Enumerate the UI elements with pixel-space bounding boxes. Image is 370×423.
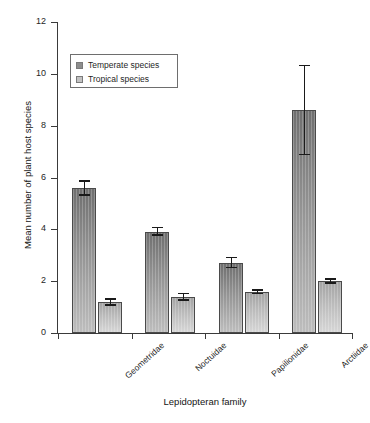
errorbar-cap-bottom <box>325 282 336 284</box>
errorbar-geometridae-tropical <box>110 298 111 306</box>
x-axis-tick <box>352 334 353 339</box>
x-axis-tick <box>279 334 280 339</box>
legend-swatch-tropical-icon <box>76 76 83 83</box>
errorbar-cap-bottom <box>178 299 189 301</box>
errorbar-cap-top <box>325 278 336 280</box>
x-tick-label-arctiidae: Arctiidae <box>340 341 370 370</box>
y-axis-tick-label: 12 <box>36 17 46 26</box>
errorbar-papilionidae-tropical <box>257 289 258 294</box>
y-axis-tick-label: 2 <box>41 276 46 285</box>
errorbar-cap-bottom <box>79 194 90 196</box>
y-axis-tick-label: 4 <box>41 224 46 233</box>
errorbar-cap-bottom <box>152 234 163 236</box>
bar-papilionidae-temperate <box>219 263 243 333</box>
errorbar-cap-top <box>79 180 90 182</box>
y-axis-tick-label: 10 <box>36 69 46 78</box>
bar-geometridae-tropical <box>98 302 122 333</box>
legend-item-tropical: Tropical species <box>76 73 172 86</box>
legend-label-temperate: Temperate species <box>88 61 159 70</box>
bar-arctiidae-tropical <box>318 281 342 333</box>
errorbar-cap-top <box>226 257 237 259</box>
y-axis-tick-label: 0 <box>41 328 46 337</box>
errorbar-arctiidae-temperate <box>304 65 305 156</box>
x-tick-label-papilionidae: Papilionidae <box>270 341 310 379</box>
y-axis-tick <box>51 74 58 75</box>
y-axis-tick <box>51 333 58 334</box>
errorbar-cap-bottom <box>226 267 237 269</box>
caption-strip <box>0 414 360 423</box>
errorbar-cap-bottom <box>299 154 310 156</box>
legend: Temperate species Tropical species <box>70 54 178 88</box>
legend-swatch-temperate-icon <box>76 62 83 69</box>
y-axis-tick <box>51 229 58 230</box>
x-tick-label-geometridae: Geometridae <box>123 341 166 381</box>
bar-geometridae-temperate <box>72 188 96 333</box>
y-axis-tick <box>51 126 58 127</box>
legend-item-temperate: Temperate species <box>76 59 172 72</box>
errorbar-cap-top <box>152 227 163 229</box>
legend-label-tropical: Tropical species <box>88 75 149 84</box>
bar-noctuidae-temperate <box>145 232 169 333</box>
x-axis-tick <box>205 334 206 339</box>
errorbar-noctuidae-temperate <box>157 227 158 236</box>
y-axis-tick-label: 8 <box>41 121 46 130</box>
errorbar-cap-bottom <box>105 304 116 306</box>
errorbar-noctuidae-tropical <box>183 293 184 301</box>
errorbar-geometridae-temperate <box>84 180 85 196</box>
errorbar-cap-top <box>299 65 310 67</box>
y-axis-tick <box>51 22 58 23</box>
bar-noctuidae-tropical <box>171 297 195 333</box>
bar-papilionidae-tropical <box>245 292 269 333</box>
y-axis-tick <box>51 281 58 282</box>
y-axis-tick-label: 6 <box>41 173 46 182</box>
errorbar-cap-bottom <box>252 293 263 295</box>
x-axis-tick <box>58 334 59 339</box>
x-axis-tick <box>132 334 133 339</box>
errorbar-cap-top <box>105 298 116 300</box>
x-axis-title: Lepidopteran family <box>58 396 352 407</box>
y-axis-title: Mean number of plant host species <box>23 75 33 275</box>
x-tick-label-noctuidae: Noctuidae <box>194 341 228 373</box>
errorbar-cap-top <box>178 293 189 295</box>
errorbar-arctiidae-tropical <box>330 278 331 284</box>
errorbar-cap-top <box>252 289 263 291</box>
errorbar-papilionidae-temperate <box>231 257 232 269</box>
y-axis-tick <box>51 178 58 179</box>
